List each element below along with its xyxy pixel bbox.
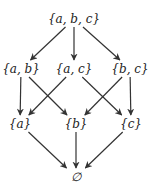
edge-bc-to-c	[130, 77, 131, 115]
edge-abc-to-ab	[31, 27, 66, 60]
node-b: {b}	[65, 117, 88, 131]
node-abc: {a, b, c}	[48, 12, 100, 26]
node-a: {a}	[9, 117, 31, 131]
node-c: {c}	[120, 117, 142, 131]
node-empty: ∅	[71, 170, 82, 184]
node-ab: {a, b}	[2, 62, 40, 76]
edge-ab-to-a	[20, 77, 21, 115]
edge-abc-to-bc	[83, 27, 120, 60]
edge-c-to-empty	[85, 132, 122, 168]
node-ac: {a, c}	[56, 62, 93, 76]
nodes: {a, b, c}{a, b}{a, c}{b, c}{a}{b}{c}∅	[2, 12, 149, 184]
hasse-diagram: {a, b, c}{a, b}{a, c}{b, c}{a}{b}{c}∅	[0, 0, 151, 188]
edges	[20, 27, 131, 168]
node-bc: {b, c}	[111, 62, 148, 76]
edge-a-to-empty	[28, 132, 66, 168]
